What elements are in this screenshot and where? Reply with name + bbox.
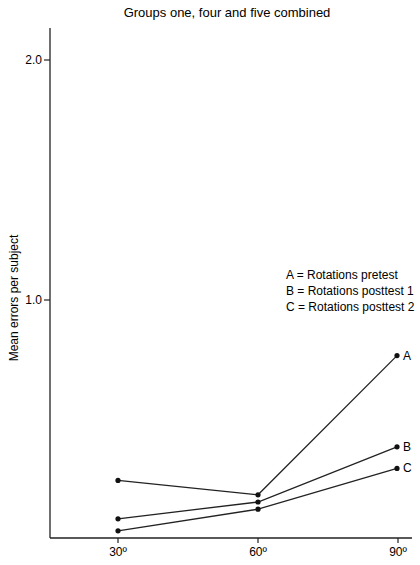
x-tick-label: 60º [249, 545, 267, 559]
line-chart: Groups one, four and five combined 2.0 1… [0, 0, 420, 565]
legend: A = Rotations pretest B = Rotations post… [286, 268, 415, 314]
x-ticks: 30º 60º 90º [109, 538, 407, 559]
y-ticks: 2.0 1.0 [25, 53, 50, 307]
chart-title: Groups one, four and five combined [124, 5, 331, 20]
data-point [255, 492, 260, 497]
data-point [115, 478, 120, 483]
data-point [115, 516, 120, 521]
series-layer: ABC [115, 349, 412, 534]
series-end-label: C [403, 461, 412, 475]
series-b: B [115, 440, 411, 522]
y-tick-label: 2.0 [25, 53, 42, 67]
series-line [118, 356, 397, 495]
data-point [255, 507, 260, 512]
data-point [394, 353, 399, 358]
legend-entry-b: B = Rotations posttest 1 [286, 284, 414, 298]
data-point [255, 499, 260, 504]
y-tick-label: 1.0 [25, 293, 42, 307]
series-end-label: B [403, 440, 411, 454]
data-point [394, 444, 399, 449]
series-end-label: A [403, 349, 411, 363]
legend-entry-a: A = Rotations pretest [286, 268, 398, 282]
legend-entry-c: C = Rotations posttest 2 [286, 300, 415, 314]
x-tick-label: 90º [389, 545, 407, 559]
x-tick-label: 30º [109, 545, 127, 559]
series-a: A [115, 349, 411, 498]
y-axis-label: Mean errors per subject [7, 234, 21, 361]
data-point [115, 528, 120, 533]
series-c: C [115, 461, 412, 533]
data-point [394, 466, 399, 471]
